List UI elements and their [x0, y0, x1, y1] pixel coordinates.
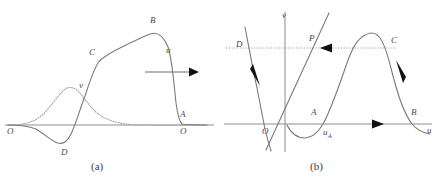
label-point-b: B: [411, 108, 417, 117]
label-point-p: P: [309, 34, 315, 43]
flow-arrow-up-icon: [396, 60, 406, 83]
label-point-a: A: [311, 108, 317, 117]
caption-panel-b: (b): [310, 161, 323, 172]
label-point-d: D: [236, 40, 243, 49]
panel-b-plot: [219, 0, 438, 183]
panel-a: O O A B C D u v (a): [0, 0, 219, 183]
label-point-b: B: [150, 16, 156, 25]
flow-arrow-head-icon: [189, 68, 199, 77]
label-u-a: uA: [323, 128, 332, 139]
label-point-c: C: [89, 48, 95, 57]
label-curve-u: u: [166, 46, 171, 55]
label-origin-right: O: [180, 127, 187, 136]
label-axis-u: u: [427, 126, 432, 135]
label-curve-v: v: [79, 81, 83, 90]
flow-arrow-right-icon: [372, 120, 384, 129]
label-point-d: D: [61, 148, 68, 157]
panel-b: v u O D P C A B uA (b): [219, 0, 438, 183]
label-origin-left: O: [7, 127, 14, 136]
label-axis-v: v: [282, 11, 286, 20]
label-point-a: A: [180, 110, 186, 119]
curve-cubic-nullcline: [287, 33, 430, 138]
label-point-c: C: [391, 36, 397, 45]
caption-panel-a: (a): [91, 161, 103, 172]
flow-arrow-down-icon: [250, 64, 260, 86]
flow-arrow-left-icon: [320, 44, 332, 53]
panel-a-plot: [0, 0, 219, 183]
label-origin: O: [262, 127, 269, 136]
label-u-a-subscript: A: [328, 132, 332, 139]
figure-container: O O A B C D u v (a): [0, 0, 438, 183]
curve-u-solid: [8, 33, 207, 143]
